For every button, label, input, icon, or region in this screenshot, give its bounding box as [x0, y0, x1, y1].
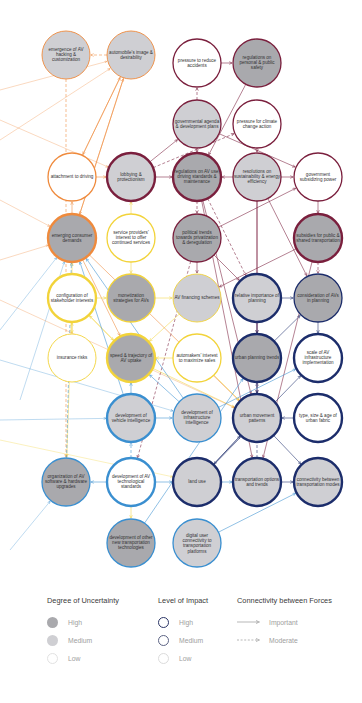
force-network-diagram [0, 0, 362, 580]
force-node-movement[interactable] [233, 394, 281, 442]
legend-uncertainty-high: High [47, 613, 119, 631]
force-node-avuse[interactable] [173, 153, 221, 201]
legend-connectivity: Connectivity between Forces Important Mo… [237, 596, 332, 649]
force-node-sustain[interactable] [233, 153, 281, 201]
force-node-tools[interactable] [107, 519, 155, 567]
connection-arrow [150, 140, 178, 162]
force-node-infra[interactable] [173, 394, 221, 442]
legend: Degree of Uncertainty High Medium Low Le… [0, 596, 362, 696]
force-node-accidents[interactable] [173, 39, 221, 87]
force-node-attachment[interactable] [48, 153, 96, 201]
force-node-scale[interactable] [294, 334, 342, 382]
connection-arrow [83, 77, 121, 155]
force-node-consumer[interactable] [48, 214, 96, 262]
connection-arrow [213, 436, 239, 464]
force-node-safety[interactable] [233, 39, 281, 87]
legend-uncertainty-title: Degree of Uncertainty [47, 596, 119, 605]
legend-uncertainty: Degree of Uncertainty High Medium Low [47, 596, 119, 667]
force-node-connectivity[interactable] [294, 458, 342, 506]
force-node-hacking[interactable] [42, 31, 90, 79]
thin-ring-icon [158, 653, 169, 664]
force-node-lobbying[interactable] [107, 153, 155, 201]
force-node-digital[interactable] [173, 519, 221, 567]
legend-label: Important [269, 619, 298, 626]
empty-circle-icon [47, 653, 58, 664]
connection-arrow [0, 245, 48, 260]
ring-icon [158, 635, 169, 646]
force-node-image[interactable] [107, 31, 155, 79]
force-node-software[interactable] [42, 458, 90, 506]
force-node-speed[interactable] [107, 334, 155, 382]
force-node-consideration[interactable] [294, 274, 342, 322]
force-node-vehicle[interactable] [107, 394, 155, 442]
connection-arrow [214, 375, 239, 400]
connection-arrow [0, 69, 110, 140]
connection-arrow [0, 418, 106, 420]
legend-connectivity-important: Important [237, 613, 332, 631]
legend-uncertainty-low: Low [47, 649, 119, 667]
legend-label: Low [179, 655, 191, 662]
force-node-service[interactable] [107, 214, 155, 262]
force-node-planning[interactable] [233, 334, 281, 382]
legend-connectivity-moderate: Moderate [237, 631, 332, 649]
legend-label: High [179, 619, 193, 626]
force-node-subsidizing[interactable] [294, 153, 342, 201]
filled-circle-icon [47, 635, 58, 646]
legend-uncertainty-medium: Medium [47, 631, 119, 649]
force-node-subsidies[interactable] [294, 214, 342, 262]
force-node-financing[interactable] [173, 274, 221, 322]
legend-label: Medium [68, 637, 92, 644]
dashed-arrow-icon [237, 640, 261, 641]
nodes-layer [42, 31, 342, 567]
force-node-options[interactable] [233, 458, 281, 506]
force-node-fabric[interactable] [294, 394, 342, 442]
legend-label: Low [68, 655, 80, 662]
force-node-landuse[interactable] [173, 458, 221, 506]
solid-arrow-icon [237, 622, 261, 623]
force-node-relative[interactable] [233, 274, 281, 322]
connection-arrow [274, 316, 300, 342]
legend-impact: Level of Impact High Medium Low [158, 596, 208, 667]
filled-circle-icon [47, 617, 58, 628]
legend-connectivity-title: Connectivity between Forces [237, 596, 332, 605]
connection-arrow [214, 255, 239, 280]
force-node-monetization[interactable] [107, 274, 155, 322]
connection-arrow [0, 200, 50, 226]
legend-impact-high: High [158, 613, 208, 631]
legend-label: High [68, 619, 82, 626]
legend-label: Moderate [269, 637, 298, 644]
legend-impact-medium: Medium [158, 631, 208, 649]
legend-label: Medium [179, 637, 203, 644]
force-node-climate[interactable] [233, 100, 281, 148]
connection-arrow [10, 501, 50, 550]
legend-impact-low: Low [158, 649, 208, 667]
force-node-standards[interactable] [107, 458, 155, 506]
force-node-config[interactable] [48, 274, 96, 322]
thick-ring-icon [158, 617, 169, 628]
connection-arrow [0, 120, 108, 167]
force-node-political[interactable] [173, 214, 221, 262]
force-node-agenda[interactable] [173, 100, 221, 148]
force-node-insurance[interactable] [48, 334, 96, 382]
legend-impact-title: Level of Impact [158, 596, 208, 605]
force-node-automakers[interactable] [173, 334, 221, 382]
connection-arrow [274, 435, 301, 464]
